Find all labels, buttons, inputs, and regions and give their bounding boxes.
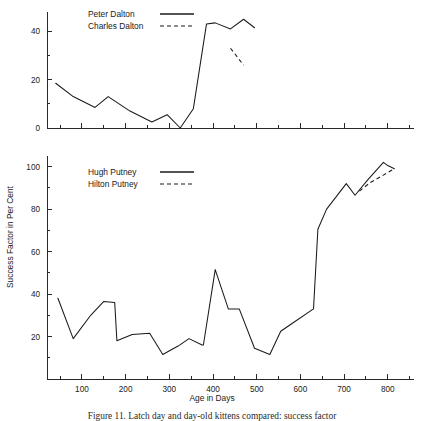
bottom-panel-legend: Hugh Putney Hilton Putney — [88, 167, 194, 189]
y-tick-label-80: 80 — [31, 205, 41, 214]
x-tick-label-600: 600 — [294, 385, 308, 394]
top-panel: 02040 Peter Dalton Charles Dalton — [31, 9, 414, 133]
x-tick-label-800: 800 — [381, 385, 395, 394]
bottom-panel-axes: 20406080100 100200300400500600700800 — [26, 156, 414, 394]
top-y-tick-labels: 02040 — [31, 27, 41, 133]
x-tick-label-100: 100 — [75, 385, 89, 394]
legend-label-charles-dalton: Charles Dalton — [88, 21, 144, 31]
x-tick-label-300: 300 — [162, 385, 176, 394]
series-line-charles-dalton — [231, 48, 244, 65]
figure-caption: Figure 11. Latch day and day-old kittens… — [88, 411, 337, 421]
bottom-y-tick-labels: 20406080100 — [26, 163, 40, 342]
y-tick-label-20: 20 — [31, 76, 41, 85]
y-axis-title: Success Factor in Per Cent — [5, 185, 15, 288]
bottom-panel: 20406080100 100200300400500600700800 Hug… — [26, 156, 414, 394]
two-panel-line-chart: 02040 Peter Dalton Charles Dalton 204060… — [0, 0, 424, 421]
y-tick-label-40: 40 — [31, 27, 41, 36]
series-line-hugh-putney — [58, 162, 394, 354]
top-panel-legend: Peter Dalton Charles Dalton — [88, 9, 194, 31]
x-tick-label-200: 200 — [119, 385, 133, 394]
y-tick-label-60: 60 — [31, 248, 41, 257]
y-tick-label-40: 40 — [31, 290, 41, 299]
bottom-y-ticks — [47, 167, 52, 379]
bottom-panel-series — [58, 162, 394, 354]
top-panel-series — [56, 19, 255, 128]
bottom-x-ticks — [60, 374, 410, 379]
top-x-ticks — [60, 123, 410, 128]
series-line-hilton-putney — [359, 169, 394, 191]
legend-label-hugh-putney: Hugh Putney — [88, 167, 137, 177]
legend-label-peter-dalton: Peter Dalton — [88, 9, 135, 19]
series-line-peter-dalton — [56, 19, 255, 128]
figure-container: 02040 Peter Dalton Charles Dalton 204060… — [0, 0, 424, 421]
y-tick-label-100: 100 — [26, 163, 40, 172]
x-tick-label-700: 700 — [337, 385, 351, 394]
bottom-x-tick-labels: 100200300400500600700800 — [75, 385, 395, 394]
y-tick-label-0: 0 — [35, 124, 40, 133]
y-tick-label-20: 20 — [31, 333, 41, 342]
x-axis-title: Age in Days — [189, 393, 234, 403]
legend-label-hilton-putney: Hilton Putney — [88, 179, 139, 189]
x-tick-label-500: 500 — [250, 385, 264, 394]
top-y-ticks — [47, 31, 52, 128]
